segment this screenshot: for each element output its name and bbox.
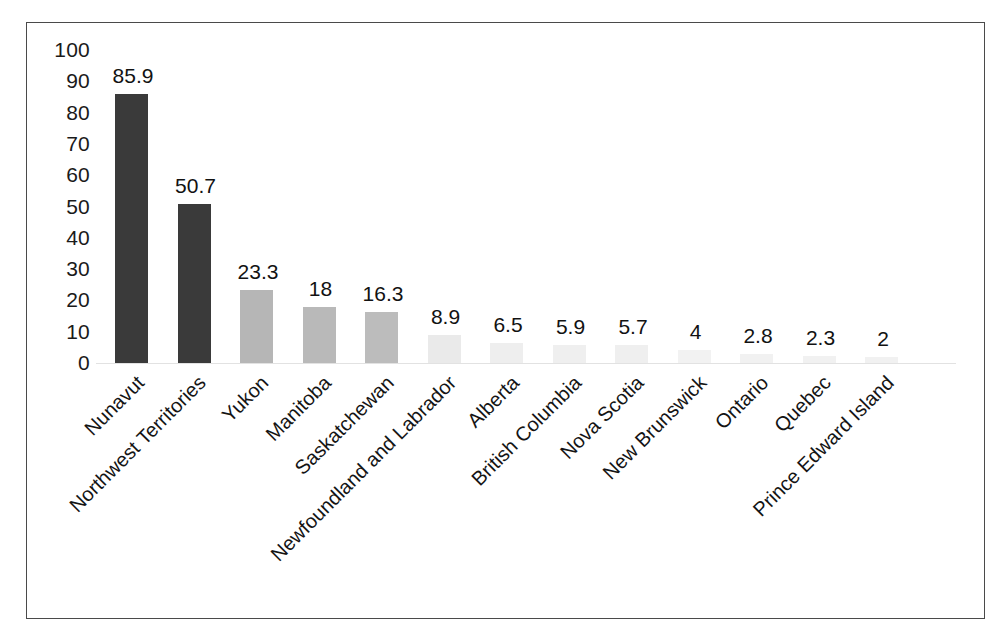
y-axis-tick-90: 90 [30, 70, 90, 91]
chart-figure: 1009080706050403020100 85.950.723.31816.… [0, 0, 1000, 644]
bar-group: 2.3 [790, 33, 852, 363]
bar-value-label: 5.7 [602, 316, 664, 337]
bar-group: 85.9 [102, 33, 164, 363]
bar-group: 6.5 [477, 33, 539, 363]
x-axis-category-label: Ontario [712, 372, 773, 433]
y-axis-tick-80: 80 [30, 102, 90, 123]
x-axis-label-wrap: Nova Scotia [602, 372, 664, 373]
x-axis-label-wrap: British Columbia [540, 372, 602, 373]
x-axis-label-wrap: Manitoba [290, 372, 352, 373]
bar-group: 23.3 [227, 33, 289, 363]
y-axis-tick-0: 0 [30, 352, 90, 373]
x-axis-label-wrap: Quebec [790, 372, 852, 373]
bar-value-label: 18 [290, 278, 352, 299]
bar-value-label: 2 [852, 328, 914, 349]
y-axis-tick-70: 70 [30, 133, 90, 154]
bar [678, 350, 711, 363]
bar-group: 4 [665, 33, 727, 363]
x-axis-label-wrap: Prince Edward Island [852, 372, 914, 373]
x-axis-label-wrap: New Brunswick [665, 372, 727, 373]
bar [365, 312, 398, 363]
bar [178, 204, 211, 363]
bar-group: 16.3 [352, 33, 414, 363]
x-axis-baseline [96, 363, 956, 364]
y-axis-tick-labels: 1009080706050403020100 [30, 0, 90, 644]
x-axis-label-wrap: Yukon [227, 372, 289, 373]
x-axis-label-wrap: Saskatchewan [352, 372, 414, 373]
bar [615, 345, 648, 363]
bar-group: 2.8 [727, 33, 789, 363]
bar [803, 356, 836, 363]
bar-value-label: 6.5 [477, 314, 539, 335]
y-axis-tick-60: 60 [30, 164, 90, 185]
bar [240, 290, 273, 363]
x-axis-category-label: British Columbia [468, 372, 585, 489]
y-axis-tick-50: 50 [30, 196, 90, 217]
bar-value-label: 2.3 [790, 327, 852, 348]
bar-value-label: 16.3 [352, 283, 414, 304]
bar-value-label: 8.9 [415, 306, 477, 327]
y-axis-tick-100: 100 [30, 39, 90, 60]
x-axis-category-label: Alberta [463, 372, 522, 431]
bar-value-label: 50.7 [165, 175, 227, 196]
x-axis-label-wrap: Northwest Territories [165, 372, 227, 373]
bar-value-label: 23.3 [227, 261, 289, 282]
bar-value-label: 85.9 [102, 65, 164, 86]
y-axis-tick-20: 20 [30, 289, 90, 310]
x-axis-category-label: Yukon [219, 372, 272, 425]
bar-group: 8.9 [415, 33, 477, 363]
bar [490, 343, 523, 363]
bar [553, 345, 586, 363]
x-axis-label-wrap: Ontario [727, 372, 789, 373]
bar [865, 357, 898, 363]
x-axis-label-wrap: Nunavut [102, 372, 164, 373]
x-axis-label-wrap: Newfoundland and Labrador [415, 372, 477, 373]
y-axis-tick-30: 30 [30, 258, 90, 279]
plot-area: 1009080706050403020100 85.950.723.31816.… [0, 0, 1000, 644]
bar-group: 18 [290, 33, 352, 363]
bar-group: 2 [852, 33, 914, 363]
bar-value-label: 5.9 [540, 316, 602, 337]
bar-value-label: 2.8 [727, 325, 789, 346]
x-axis-label-wrap: Alberta [477, 372, 539, 373]
bar-group: 5.9 [540, 33, 602, 363]
bar-group: 50.7 [165, 33, 227, 363]
bar [303, 307, 336, 363]
bar [428, 335, 461, 363]
bar [115, 94, 148, 363]
bar [740, 354, 773, 363]
bar-value-label: 4 [665, 321, 727, 342]
x-axis-category-label: Quebec [771, 372, 835, 436]
y-axis-tick-40: 40 [30, 227, 90, 248]
bar-group: 5.7 [602, 33, 664, 363]
y-axis-tick-10: 10 [30, 321, 90, 342]
